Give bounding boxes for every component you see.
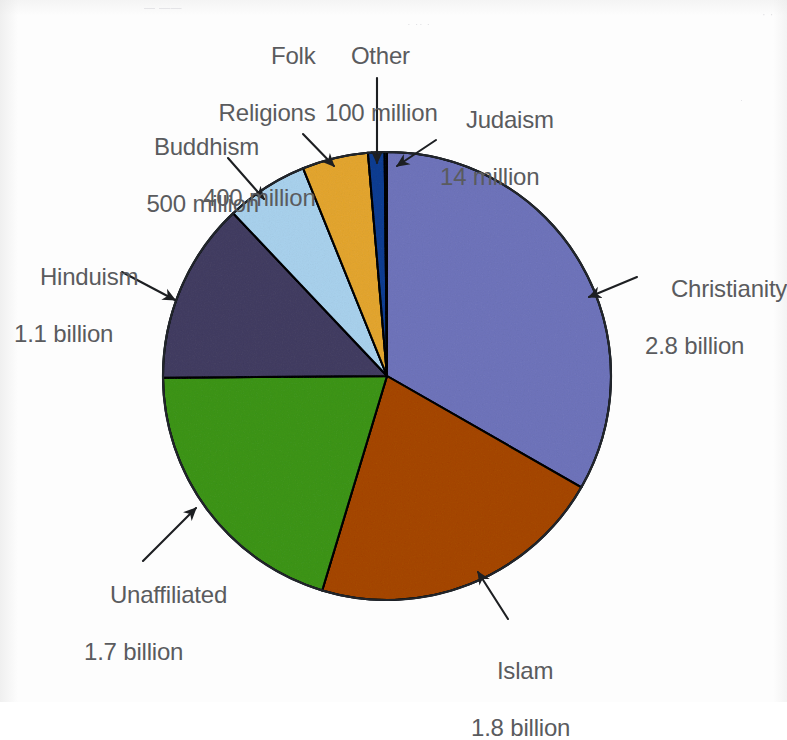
slice-label-christianity: Christianity 2.8 billion bbox=[645, 247, 787, 417]
slice-label-judaism-value: 14 million bbox=[440, 163, 554, 191]
slice-label-islam: Islam 1.8 billion bbox=[471, 629, 570, 740]
slice-label-judaism: Judaism 14 million bbox=[440, 78, 554, 248]
slice-label-buddhism-line1: Buddhism bbox=[154, 133, 259, 160]
slice-label-judaism-line1: Judaism bbox=[466, 106, 554, 133]
slice-label-islam-value: 1.8 billion bbox=[471, 714, 570, 740]
slice-label-buddhism-value: 500 million bbox=[128, 190, 259, 218]
slice-label-hinduism-value: 1.1 billion bbox=[14, 320, 138, 348]
slice-label-other-value: 100 million bbox=[325, 99, 438, 127]
slice-label-folk-religions-line1: Folk bbox=[271, 42, 316, 69]
slice-label-buddhism: Buddhism 500 million bbox=[128, 105, 259, 275]
slice-label-hinduism-line1: Hinduism bbox=[40, 263, 138, 290]
leader-christianity bbox=[589, 277, 637, 297]
slice-label-unaffiliated-value: 1.7 billion bbox=[84, 638, 227, 666]
slice-label-other: Other 100 million bbox=[325, 14, 438, 184]
slice-label-christianity-line1: Christianity bbox=[671, 275, 787, 302]
slice-label-unaffiliated: Unaffiliated 1.7 billion bbox=[84, 553, 227, 723]
slice-label-islam-line1: Islam bbox=[497, 657, 553, 684]
slice-label-christianity-value: 2.8 billion bbox=[645, 332, 787, 360]
slice-label-hinduism: Hinduism 1.1 billion bbox=[14, 235, 138, 405]
leader-islam bbox=[478, 572, 508, 619]
slice-label-unaffiliated-line1: Unaffiliated bbox=[110, 581, 227, 608]
slice-label-other-line1: Other bbox=[351, 42, 410, 69]
